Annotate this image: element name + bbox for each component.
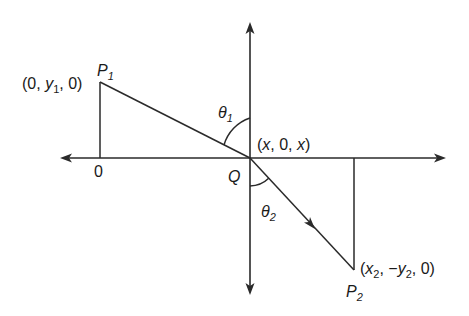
ray-diagram: P1 (0, y1, 0) θ1 (x, 0, x) 0 Q θ2 (x2, −… xyxy=(0,0,469,316)
p1-label: P1 xyxy=(97,62,114,82)
theta2-label: θ2 xyxy=(261,203,276,223)
origin-zero-label: 0 xyxy=(94,163,103,180)
theta1-label: θ1 xyxy=(218,104,233,124)
point-coordinates-x0x: (x, 0, x) xyxy=(257,136,310,153)
p2-coordinates: (x2, −y2, 0) xyxy=(360,260,435,280)
q-label: Q xyxy=(228,168,240,185)
p1-coordinates: (0, y1, 0) xyxy=(22,75,82,95)
p2-label: P2 xyxy=(346,283,363,303)
angle-arc-theta2 xyxy=(250,178,269,186)
